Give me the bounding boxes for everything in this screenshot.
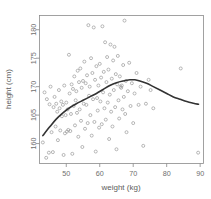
data-point [123,19,126,22]
data-point [62,153,65,156]
data-point [98,62,101,65]
data-point [100,123,103,126]
y-tick-label: 175 [29,52,38,64]
data-point [99,100,102,103]
data-point [149,89,152,92]
data-point [80,86,83,89]
data-point [78,108,81,111]
data-point [68,92,71,95]
data-point [103,107,106,110]
data-point [84,82,87,85]
x-axis-ticks: 5060708090 [62,164,204,178]
data-point [104,118,107,121]
data-point [111,125,114,128]
plot-canvas: 5060708090 160165170175180 weight (kg) h… [0,0,211,199]
x-axis-label: weight (kg) [100,183,140,192]
data-point [117,99,120,102]
data-point [89,114,92,117]
data-point [71,87,74,90]
data-point [61,103,64,106]
data-point [97,84,100,87]
data-point [96,109,99,112]
data-point [124,112,127,115]
data-point [79,67,82,70]
data-point [75,90,78,93]
y-tick-label: 165 [29,109,38,121]
data-point [135,71,138,74]
data-point [121,108,124,111]
data-point [112,89,115,92]
data-point [43,91,46,94]
data-point [92,98,95,101]
data-point [96,97,99,100]
data-point [63,84,66,87]
x-tick-label: 60 [96,169,104,178]
data-point [106,56,109,59]
data-point [49,85,52,88]
data-point [87,24,90,27]
data-point [77,81,80,84]
data-point [179,67,182,70]
data-point [125,131,128,134]
data-point [115,148,118,151]
data-point [65,101,68,104]
data-point [137,103,140,106]
data-point [122,95,125,98]
x-tick-label: 90 [196,169,204,178]
data-point [73,124,76,127]
data-point [92,26,95,29]
data-point [132,122,135,125]
data-point [93,120,96,123]
data-point [84,127,87,130]
data-point [105,81,108,84]
x-tick-label: 70 [129,169,137,178]
data-point [81,145,84,148]
data-point [56,139,59,142]
data-point [71,152,74,155]
data-point [73,75,76,78]
data-point [60,100,63,103]
data-point [142,144,145,147]
data-point [109,43,112,46]
data-point [55,102,58,105]
data-point [101,25,104,28]
data-point [114,73,117,76]
y-tick-label: 160 [29,138,38,150]
y-axis-label: height (cm) [4,69,13,109]
data-point [52,106,55,109]
data-point [100,76,103,79]
y-tick-label: 170 [29,81,38,93]
data-point [53,95,56,98]
data-point [74,99,77,102]
data-point [88,85,91,88]
data-point [108,93,111,96]
data-point [118,75,121,78]
data-point [45,98,48,101]
data-point [95,65,98,68]
data-point [69,112,72,115]
data-point [104,41,107,44]
data-point [147,78,150,81]
data-point [80,119,83,122]
data-point [139,85,142,88]
data-point [94,78,97,81]
data-point [122,64,125,67]
data-point [116,54,119,57]
data-point [144,102,147,105]
scatter-points [41,19,199,159]
data-point [129,105,132,108]
y-axis-ticks: 160165170175180 [29,24,40,150]
data-point [90,57,93,60]
data-point [130,82,133,85]
data-point [58,107,61,110]
data-point [94,150,97,153]
scatter-plot-figure: 5060708090 160165170175180 weight (kg) h… [0,0,211,199]
data-point [41,141,44,144]
data-point [82,79,85,82]
data-point [57,89,60,92]
data-point [70,83,73,86]
data-point [67,53,70,56]
data-point [197,151,200,154]
data-point [102,70,105,73]
data-point [108,138,111,141]
